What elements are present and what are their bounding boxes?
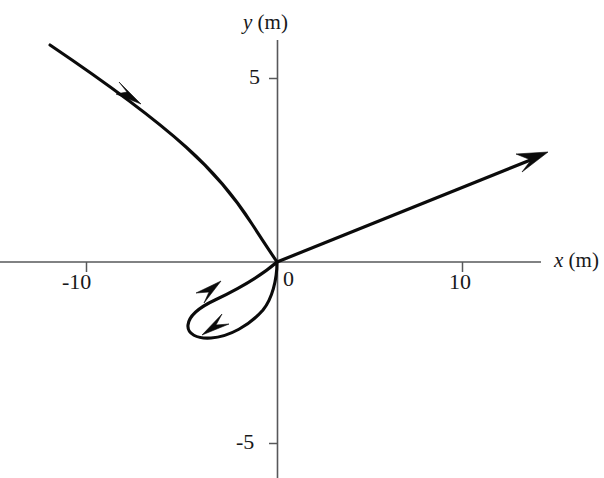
arrow-loop-lower: [202, 314, 229, 335]
tick-label-y-neg5: -5: [236, 431, 254, 453]
velocity-vector-arrowhead: [516, 152, 548, 172]
trajectory-curve-group: [50, 45, 277, 338]
direction-arrowheads-group: [116, 82, 229, 335]
tick-label-y-5: 5: [249, 66, 260, 88]
plot-canvas: [0, 0, 604, 478]
y-axis-unit: (m): [258, 10, 288, 34]
tick-label-x-10: 10: [449, 271, 471, 293]
y-axis-label: y (m): [243, 12, 288, 33]
trajectory-incoming-branch: [50, 45, 277, 262]
x-axis-unit: (m): [569, 248, 599, 272]
velocity-vector-group: [277, 152, 548, 262]
y-axis-variable: y: [243, 10, 252, 34]
trajectory-loop: [188, 262, 277, 338]
axes-group: [0, 40, 541, 478]
tick-label-x-neg10: -10: [62, 271, 91, 293]
velocity-vector-shaft: [277, 157, 538, 262]
x-axis-label: x (m): [554, 250, 599, 271]
x-axis-variable: x: [554, 248, 563, 272]
figure-root: y (m) x (m) 5 -5 -10 10 0: [0, 0, 604, 478]
tick-label-origin: 0: [283, 268, 294, 290]
